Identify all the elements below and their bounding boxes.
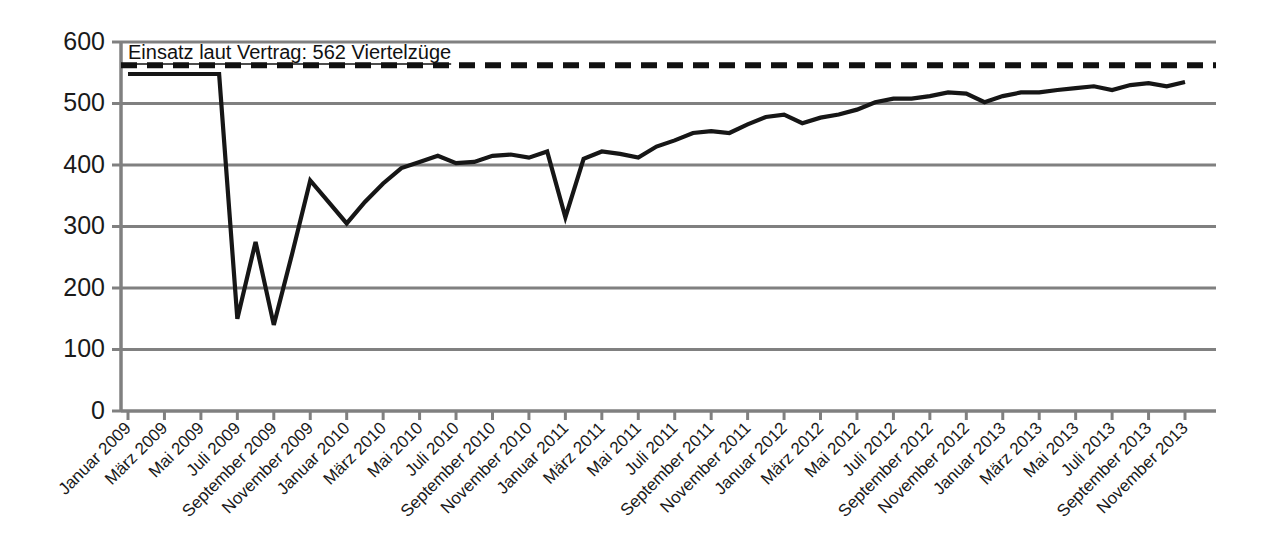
contract-target-annotation: Einsatz laut Vertrag: 562 Viertelzüge	[128, 41, 451, 63]
y-tick-label: 500	[63, 88, 105, 116]
y-axis-labels: 6005004003002001000	[63, 27, 105, 424]
chart-container: 6005004003002001000 Januar 2009März 2009…	[0, 0, 1279, 556]
y-tick-label: 600	[63, 27, 105, 55]
y-tick-label: 400	[63, 150, 105, 178]
line-chart: 6005004003002001000 Januar 2009März 2009…	[0, 0, 1279, 556]
y-tick-label: 300	[63, 211, 105, 239]
y-tick-label: 0	[91, 396, 105, 424]
y-tick-label: 100	[63, 334, 105, 362]
y-tick-label: 200	[63, 273, 105, 301]
x-axis-labels: Januar 2009März 2009Mai 2009Juli 2009Sep…	[55, 418, 1192, 520]
gridlines	[121, 42, 1216, 350]
